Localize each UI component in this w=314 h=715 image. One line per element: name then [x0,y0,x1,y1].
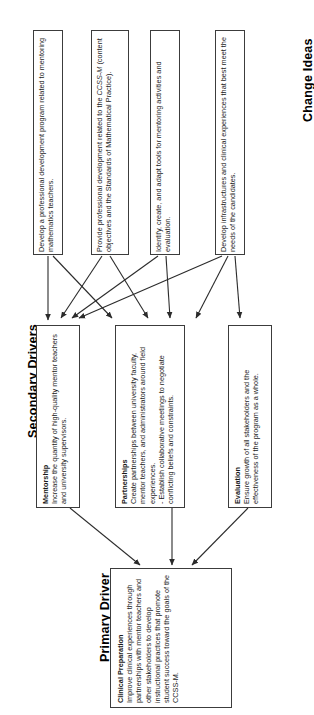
secondary-to-primary-arrows [70,508,248,565]
secondary-driver-box-mentorship[interactable]: Mentorship Increase the quantity of high… [36,325,80,508]
change-idea-box-2[interactable]: Provide professional development related… [91,30,129,255]
primary-driver-title: Clinical Preparation [116,573,125,703]
secondary-driver-body-mentorship: Increase the quantity of high-quality me… [50,330,68,504]
secondary-driver-box-evaluation[interactable]: Evaluation Ensure growth of all stakehol… [228,325,272,508]
secondary-driver-body-partnerships: Create partnerships between university f… [129,330,157,504]
driver-diagram-canvas: Change Ideas Develop a professional deve… [0,0,314,715]
secondary-driver-title-evaluation: Evaluation [233,330,242,504]
change-idea-box-3[interactable]: Identify, create, and adapt tools for me… [150,30,180,255]
change-idea-text-3: Identify, create, and adapt tools for me… [154,33,172,252]
secondary-driver-title-mentorship: Mentorship [41,330,50,504]
primary-driver-body: Improve clinical experiences through par… [125,573,180,703]
change-idea-text-2-part1: Provide professional development related… [95,95,104,252]
primary-driver-box-clinical-preparation[interactable]: Clinical Preparation Improve clinical ex… [110,568,232,708]
change-idea-text-2-italic: CCSS-M [95,67,104,96]
secondary-driver-body-evaluation: Ensure growth of all stakeholders and th… [242,330,260,504]
change-idea-box-4[interactable]: Develop infrastructures and clinical exp… [215,30,245,255]
change-ideas-to-secondary-arrows [48,256,240,320]
change-idea-box-1[interactable]: Develop a professional development progr… [33,30,63,255]
change-idea-text-2: Provide professional development related… [95,33,113,252]
secondary-driver-body2-partnerships: - Establish collaborative meetings to ne… [157,330,175,504]
secondary-driver-box-partnerships[interactable]: Partnerships Create partnerships between… [115,325,185,508]
secondary-driver-title-partnerships: Partnerships [120,330,129,504]
change-idea-text-4: Develop infrastructures and clinical exp… [219,33,237,252]
change-idea-text-1: Develop a professional development progr… [37,33,55,252]
section-heading-change-ideas: Change Ideas [301,2,314,122]
